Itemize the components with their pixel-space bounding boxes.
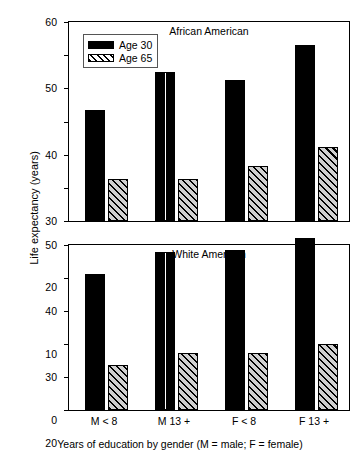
bar-group [209,245,279,410]
bar-group [69,22,139,221]
y-tick-label: 30 [45,377,57,378]
bar-age-30 [295,45,315,221]
x-tick-label: F < 8 [232,415,256,427]
y-tick-label: 50 [45,245,57,246]
bar-age-65 [178,353,198,410]
bar-age-65 [108,179,128,221]
x-tick-label: M < 8 [91,415,118,427]
y-tick-label: 60 [45,22,57,23]
y-tick-label: 10 [45,354,57,355]
bar-age-30 [85,274,105,410]
bar-group [139,22,209,221]
bar-age-30 [85,110,105,221]
x-axis-label: Years of education by gender (M = male; … [0,438,360,450]
bar-group [279,22,349,221]
y-tick-label: 0 [51,420,57,421]
y-axis-label: Life expectancy (years) [28,88,40,328]
y-tick: 20 [64,344,69,345]
y-tick: 20 [64,155,69,156]
y-tick: 30 [64,311,69,312]
bar-age-30 [225,80,245,221]
chart-figure: Life expectancy (years) African American… [0,0,360,463]
y-tick: 50 [64,245,69,246]
bar-age-65 [178,179,198,221]
bar-age-30 [155,72,175,221]
bar-age-30 [295,238,315,410]
panel-african-american: African American Age 30 Age 65 010203040… [68,21,350,222]
y-tick: 40 [64,278,69,279]
y-tick: 0 [64,410,69,411]
bar-age-65 [108,365,128,410]
y-tick-label: 50 [45,88,57,89]
y-tick: 30 [64,122,69,123]
y-tick: 10 [64,188,69,189]
plot-area-top [69,22,349,221]
bar-group [69,245,139,410]
y-tick: 60 [64,22,69,23]
bar-group [139,245,209,410]
y-tick: 50 [64,55,69,56]
bar-age-65 [318,344,338,410]
y-tick: 40 [64,88,69,89]
x-tick-label: F 13 + [299,415,329,427]
x-tick-label: M 13 + [158,415,190,427]
bar-age-30 [155,252,175,410]
y-tick-label: 40 [45,311,57,312]
y-tick: 10 [64,377,69,378]
bar-age-65 [248,353,268,410]
bar-age-30 [225,250,245,410]
y-tick-label: 40 [45,155,57,156]
bar-group [209,22,279,221]
y-tick: 0 [64,221,69,222]
bar-age-65 [248,166,268,221]
panel-white-american: White American 01020304050 [68,244,350,411]
x-axis-categories: M < 8M 13 +F < 8F 13 + [68,415,350,431]
bar-group [279,245,349,410]
bar-age-65 [318,147,338,221]
y-tick-label: 20 [45,287,57,288]
plot-area-bottom [69,245,349,410]
y-tick-label: 30 [45,221,57,222]
